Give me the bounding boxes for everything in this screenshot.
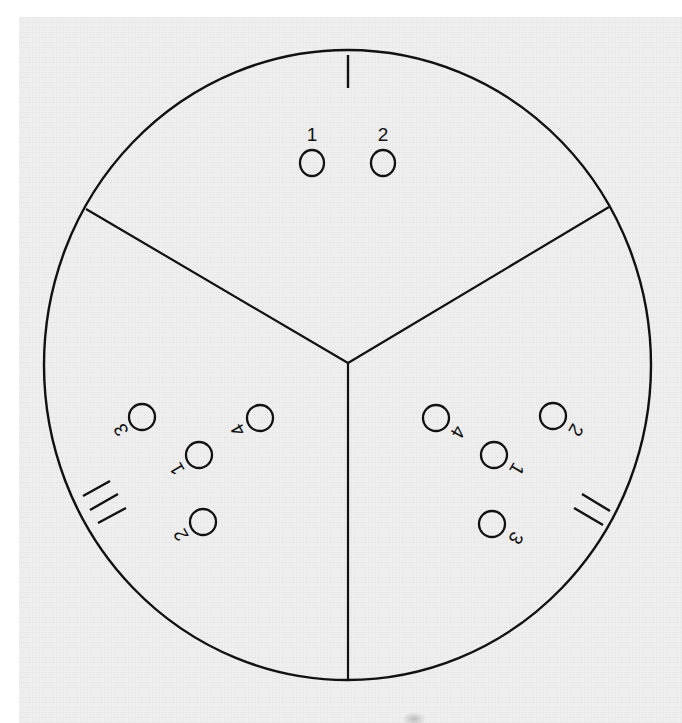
well-circle <box>129 404 155 430</box>
well-label: 1 <box>505 459 528 479</box>
well-I-2: 2 <box>371 124 395 177</box>
well-circle <box>300 150 324 176</box>
well-III-1: 1 <box>165 442 212 479</box>
well-label: 4 <box>226 420 250 440</box>
well-label: 3 <box>504 528 527 548</box>
well-circle <box>190 509 216 535</box>
well-label: 1 <box>307 124 318 145</box>
well-circle <box>540 403 566 429</box>
divider-right <box>348 207 609 363</box>
well-circle <box>371 150 395 176</box>
well-label: 1 <box>165 459 188 479</box>
well-label: 4 <box>446 422 470 442</box>
well-label: 2 <box>564 420 587 440</box>
well-II-3: 3 <box>479 511 528 548</box>
well-III-4: 4 <box>226 405 273 440</box>
divider-left <box>86 209 348 363</box>
sector-III: 3 4 1 2 <box>109 404 273 545</box>
well-II-1: 1 <box>481 442 529 479</box>
well-circle <box>423 405 449 431</box>
well-label: 2 <box>169 525 192 545</box>
well-circle <box>479 511 505 537</box>
well-circle <box>481 442 507 468</box>
well-II-4: 4 <box>423 405 470 442</box>
sector-marker-II <box>574 494 610 525</box>
well-III-3: 3 <box>109 404 155 440</box>
sector-II: 4 2 1 3 <box>423 403 588 548</box>
well-label: 2 <box>378 124 389 145</box>
figure-page: 1 2 3 4 1 2 <box>0 0 682 723</box>
sector-marker-III <box>83 481 126 523</box>
double-diffusion-plate-diagram: 1 2 3 4 1 2 <box>0 0 682 723</box>
well-II-2: 2 <box>540 403 588 440</box>
well-I-1: 1 <box>300 124 324 177</box>
well-circle <box>247 405 273 431</box>
well-circle <box>186 442 212 468</box>
well-label: 3 <box>109 420 132 440</box>
well-III-2: 2 <box>169 509 216 545</box>
sector-I: 1 2 <box>300 124 395 177</box>
